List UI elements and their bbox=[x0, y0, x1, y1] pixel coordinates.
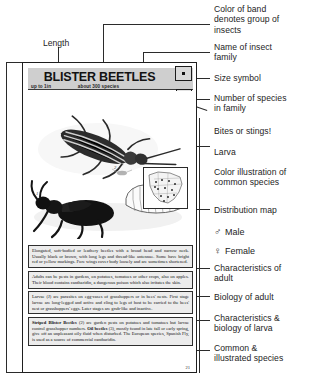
leader-right-spine bbox=[199, 118, 200, 373]
annotation-species-count: Number of species in family bbox=[214, 93, 287, 114]
annotation-characteristics-larva: Characteristics & biology of larva bbox=[214, 313, 280, 334]
annotation-bites-stings: Bites or stings! bbox=[214, 126, 271, 136]
annotation-distribution-map: Distribution map bbox=[214, 205, 277, 215]
leader-illustration-top bbox=[6, 62, 23, 63]
female-icon: ♀ bbox=[214, 245, 225, 256]
annotation-color-illustration: Color illustration of common species bbox=[214, 167, 286, 188]
annotation-color-band: Color of band denotes group of insects bbox=[214, 4, 279, 35]
leader-color-band-h2 bbox=[103, 24, 186, 25]
annotation-common-species: Common & illustrated species bbox=[214, 343, 283, 364]
size-symbol-square bbox=[182, 72, 185, 75]
annotated-field-guide-figure: Length Color of band denotes group of in… bbox=[0, 0, 311, 388]
page-number: 21 bbox=[185, 365, 190, 370]
annotation-female-label: Female bbox=[225, 246, 255, 256]
svg-text:1: 1 bbox=[36, 191, 38, 196]
text-block-biology-adult: Adults can be pests in gardens, on potat… bbox=[28, 271, 193, 289]
annotation-larva: Larva bbox=[214, 147, 236, 157]
leader-family-name-h bbox=[143, 52, 210, 53]
annotation-family-name: Name of insect family bbox=[214, 42, 272, 63]
annotation-biology-adult: Biology of adult bbox=[214, 292, 274, 302]
field-guide-page: BLISTER BEETLES up to 1in about 300 spec… bbox=[22, 62, 197, 373]
annotation-male: ♂Male bbox=[214, 226, 245, 237]
annotation-length: Length bbox=[43, 38, 69, 48]
male-icon: ♂ bbox=[214, 226, 225, 237]
annotation-size-symbol: Size symbol bbox=[214, 73, 261, 83]
size-symbol-box bbox=[175, 66, 192, 81]
text-block-characteristics-adult: Elongated, soft-bodied or leathery beetl… bbox=[28, 245, 193, 268]
illustration-plate: 1 bbox=[28, 91, 193, 239]
species-count-value: about 300 species bbox=[28, 84, 169, 89]
leader-illustration-bottom bbox=[6, 372, 23, 373]
title-band: BLISTER BEETLES up to 1in about 300 spec… bbox=[28, 68, 193, 90]
text-block-common-species: Striped Blister Beetles (2) are garden p… bbox=[28, 317, 193, 346]
species-name-oil: Oil beetles bbox=[87, 326, 107, 331]
leader-color-band-h bbox=[185, 24, 210, 25]
distribution-map bbox=[143, 167, 188, 209]
annotation-characteristics-adult: Characteristics of adult bbox=[214, 263, 281, 284]
text-blocks: Elongated, soft-bodied or leathery beetl… bbox=[28, 245, 193, 348]
page-title: BLISTER BEETLES bbox=[28, 70, 193, 84]
annotation-female: ♀Female bbox=[214, 245, 255, 256]
annotation-male-label: Male bbox=[225, 227, 245, 237]
text-block-characteristics-larva: Larvae (J) are parasites on egg-cases of… bbox=[28, 291, 193, 314]
leader-illustration-v bbox=[6, 62, 7, 373]
species-name-striped: Striped Blister Beetles bbox=[32, 320, 77, 325]
